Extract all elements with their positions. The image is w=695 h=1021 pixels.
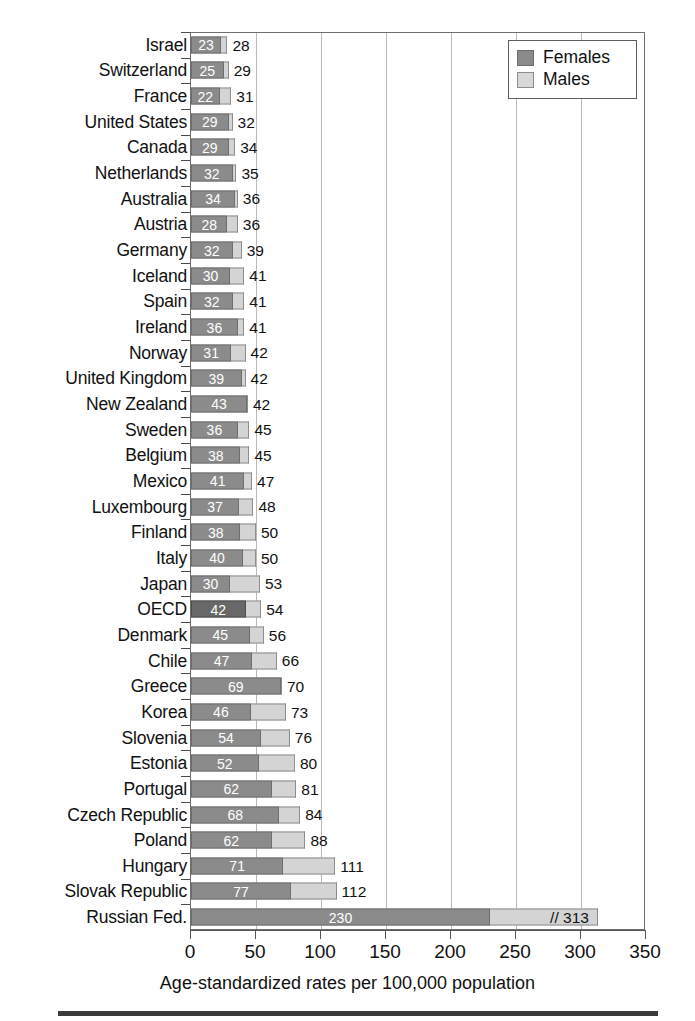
bar-segment-males: 81 [272,780,297,797]
category-label: Czech Republic [67,804,187,825]
category-label: Germany [116,240,187,261]
bar-segment-females: 62 [191,780,272,797]
bar-segment-males: 36 [235,190,238,207]
bar-segment-males: 35 [233,165,237,182]
bar-row: OECD4254 [0,596,695,622]
x-axis-tick [190,930,191,939]
category-label: Luxembourg [92,496,187,517]
bar-segment-females: 40 [191,549,243,566]
category-label: Iceland [132,265,187,286]
bar-row: United Kingdom3942 [0,366,695,392]
bar-row: Hungary71111 [0,853,695,879]
bar-value-females: 22 [196,89,216,103]
y-axis-tick [181,391,190,392]
y-axis-tick [181,160,190,161]
bar-value-females: 46 [211,705,231,719]
y-axis-tick [181,673,190,674]
bar-segment-males: 48 [239,498,253,515]
bar-value-males: 41 [249,319,266,335]
bar-value-males: 111 [340,858,364,874]
bar-segment-females: 52 [191,755,259,772]
category-label: Austria [134,214,187,235]
bar-value-males: 56 [269,627,286,643]
x-axis-tick-label: 200 [434,941,466,963]
bar-value-males: 39 [247,242,264,258]
y-axis-tick [181,904,190,905]
y-axis-tick [181,699,190,700]
bar-value-females: 68 [225,808,245,822]
bar-value-males: 66 [282,653,299,669]
bar-value-males: 76 [295,730,312,746]
y-axis-tick [181,340,190,341]
bar-value-males: 42 [251,345,268,361]
legend-item-males: Males [517,69,628,91]
bar-value-females: 34 [203,192,223,206]
bar-value-females: 23 [196,38,216,52]
bar-segment-males: 53 [230,575,260,592]
category-label: Chile [148,650,187,671]
bar-segment-females: 31 [191,344,231,361]
bar-value-males: 81 [301,781,318,797]
x-axis-tick-label: 350 [629,941,661,963]
bar-value-males: 41 [249,268,266,284]
stacked-bar: 5280 [191,755,295,772]
bar-row: Estonia5280 [0,750,695,776]
category-label: Hungary [122,855,187,876]
y-axis-tick [181,596,190,597]
bar-segment-females: 71 [191,857,283,874]
legend-swatch-males-icon [517,72,534,88]
bar-row: Spain3241 [0,289,695,315]
bar-value-males: 50 [261,550,278,566]
bar-segment-males: 31 [220,88,232,105]
stacked-bar: 4556 [191,626,264,643]
bar-segment-males: 66 [252,652,277,669]
bar-row: Iceland3041 [0,263,695,289]
bar-value-males: 29 [234,63,251,79]
bar-row: New Zealand4342 [0,391,695,417]
bar-segment-females: 42 [191,601,246,618]
category-label: United States [85,111,187,132]
bar-row: Denmark4556 [0,622,695,648]
bar-segment-females: 45 [191,626,250,643]
legend-label-males: Males [543,71,590,89]
y-axis-tick [181,212,190,213]
bar-value-males: 42 [251,371,268,387]
category-label: Israel [145,34,187,55]
legend-swatch-females-icon [517,50,534,66]
bar-segment-males: 70 [281,678,282,695]
x-axis-tick [385,930,386,939]
chart-figure: Israel2328Switzerland2529France2231Unite… [0,0,695,1021]
bar-value-males: 42 [253,396,270,412]
legend-item-females: Females [517,47,628,69]
y-axis-tick [181,853,190,854]
bar-value-females: 30 [201,577,221,591]
bar-value-males: 48 [258,499,275,515]
bar-value-females: 25 [197,63,217,77]
bar-value-females: 32 [202,166,222,180]
bar-value-males: 112 [342,884,367,900]
x-axis-tick-label: 250 [499,941,531,963]
bar-row: Poland6288 [0,827,695,853]
bar-segment-males: 45 [238,421,250,438]
bar-row: Japan3053 [0,571,695,597]
bar-segment-females: 38 [191,447,240,464]
bar-segment-males: 32 [229,113,233,130]
stacked-bar: 4766 [191,652,277,669]
y-axis-tick [181,494,190,495]
bar-row: Slovak Republic77112 [0,879,695,905]
bar-value-males: 28 [232,37,249,53]
stacked-bar: 3053 [191,575,260,592]
category-label: Slovenia [121,727,187,748]
stacked-bar: 3241 [191,293,244,310]
bar-value-males: // 313 [550,909,589,925]
x-axis-tick [450,930,451,939]
bar-row: Chile4766 [0,648,695,674]
bar-row: Austria2836 [0,212,695,238]
stacked-bar: 2836 [191,216,238,233]
bar-segment-males: 42 [231,344,245,361]
y-axis-tick [181,289,190,290]
bar-value-females: 52 [215,756,235,770]
bar-segment-males: 42 [242,370,246,387]
bar-value-females: 230 [327,910,354,924]
bar-segment-males: // 313 [490,909,598,926]
